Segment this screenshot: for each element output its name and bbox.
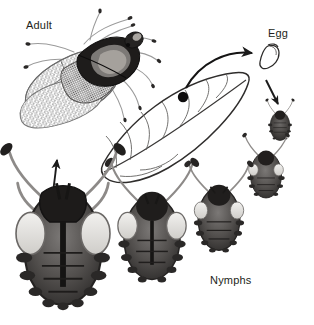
host-leaf xyxy=(101,72,249,182)
label-egg: Egg xyxy=(268,27,288,39)
life-cycle-diagram: Adult Egg Nymphs xyxy=(0,0,314,325)
stage-nymph-1 xyxy=(265,98,295,141)
label-nymphs: Nymphs xyxy=(210,274,252,286)
leaf-egg-site xyxy=(178,92,188,102)
stage-nymph-5 xyxy=(0,141,128,311)
stage-nymph-3 xyxy=(183,159,255,252)
stage-egg xyxy=(260,44,279,69)
label-adult: Adult xyxy=(26,19,52,31)
diagram-canvas xyxy=(0,0,314,325)
